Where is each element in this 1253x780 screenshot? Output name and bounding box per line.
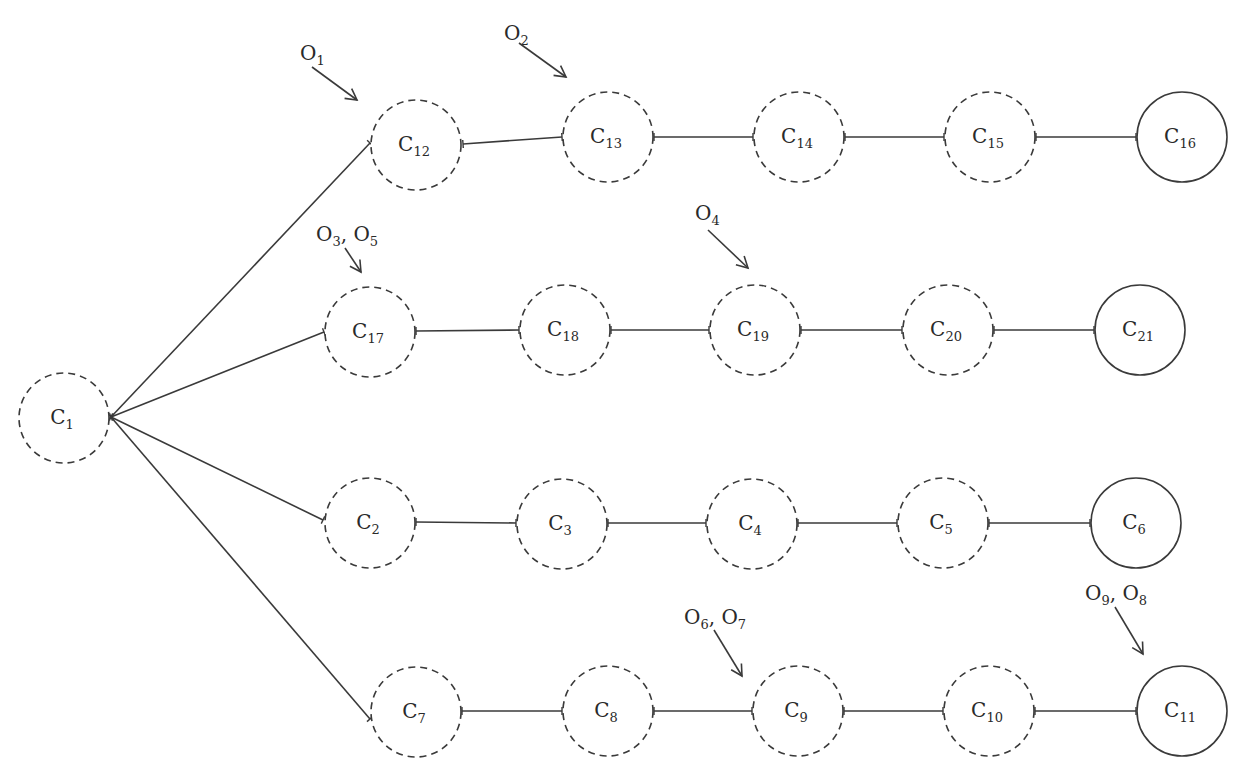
- node-c15: C15: [945, 92, 1035, 182]
- arrow-icon: [708, 230, 748, 268]
- node-c13: C13: [563, 92, 653, 182]
- node-c5: C5: [898, 478, 988, 568]
- edge-c7-c8: [462, 707, 562, 715]
- observation-label: O1: [300, 41, 325, 68]
- arrow-icon: [1115, 607, 1143, 654]
- edge-c1-c2: [109, 413, 324, 523]
- edge-end-tick: [463, 140, 464, 148]
- observation-label: O9, O8: [1085, 581, 1147, 608]
- node-c21: C21: [1095, 285, 1185, 375]
- arrow-icon: [714, 630, 742, 676]
- edge-c18-c19: [611, 326, 709, 334]
- node-c16: C16: [1137, 92, 1227, 182]
- observation-o6-o7: O6, O7: [684, 605, 746, 676]
- nodes: C1C12C13C14C15C16C17C18C19C20C21C2C3C4C5…: [19, 92, 1227, 757]
- edge-c13-c14: [654, 133, 753, 141]
- edge-c9-c10: [844, 707, 943, 715]
- node-c6: C6: [1091, 478, 1181, 568]
- node-c20: C20: [903, 285, 993, 375]
- edge-c17-c18: [416, 326, 519, 335]
- tree-diagram: C1C12C13C14C15C16C17C18C19C20C21C2C3C4C5…: [0, 0, 1253, 780]
- edge-c5-c6: [989, 519, 1090, 527]
- node-c10: C10: [944, 666, 1034, 756]
- arrow-icon: [312, 67, 357, 100]
- edge-c8-c9: [654, 707, 752, 715]
- observation-label: O3, O5: [316, 222, 378, 249]
- edge-c2-c3: [416, 518, 516, 527]
- edge-c19-c20: [801, 326, 902, 334]
- edge-c3-c4: [608, 519, 706, 527]
- node-c3: C3: [517, 479, 607, 569]
- edges: [108, 133, 1136, 722]
- arrow-icon: [345, 248, 361, 272]
- observation-label: O2: [504, 21, 529, 48]
- node-c14: C14: [754, 92, 844, 182]
- node-c4: C4: [707, 479, 797, 569]
- edge-c1-c17: [110, 328, 326, 420]
- node-c8: C8: [563, 666, 653, 756]
- edge-c10-c11: [1035, 707, 1136, 715]
- node-c12: C12: [371, 100, 461, 190]
- edge-c14-c15: [845, 133, 944, 141]
- node-c17: C17: [325, 287, 415, 377]
- arrow-icon: [519, 43, 566, 77]
- observation-o3-o5: O3, O5: [316, 222, 378, 272]
- edge-c4-c5: [798, 519, 897, 527]
- edge-c1-c12: [108, 140, 373, 419]
- edge-c20-c21: [994, 326, 1094, 334]
- edge-end-tick: [562, 133, 563, 141]
- node-c18: C18: [520, 285, 610, 375]
- observation-label: O4: [695, 201, 720, 228]
- observation-o9-o8: O9, O8: [1085, 581, 1147, 654]
- edge-c15-c16: [1036, 133, 1136, 141]
- observation-label: O6, O7: [684, 605, 746, 632]
- observation-o4: O4: [695, 201, 748, 268]
- node-c1: C1: [19, 373, 109, 463]
- observation-o2: O2: [504, 21, 566, 77]
- edge-c12-c13: [463, 133, 563, 148]
- node-c7: C7: [371, 667, 461, 757]
- node-c19: C19: [710, 285, 800, 375]
- node-c11: C11: [1137, 666, 1227, 756]
- edge-c1-c7: [108, 414, 373, 721]
- node-c2: C2: [325, 478, 415, 568]
- observation-o1: O1: [300, 41, 357, 100]
- node-c9: C9: [753, 666, 843, 756]
